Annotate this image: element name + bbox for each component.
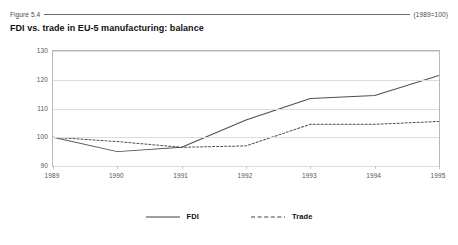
y-tick-label-90: 90: [12, 162, 48, 169]
x-tick-label-1992: 1992: [238, 172, 253, 179]
legend-line-dashed-icon: [251, 213, 285, 221]
chart-container: 90100110120130 1989199019911992199319941…: [10, 44, 448, 204]
y-tick-label-110: 110: [12, 104, 48, 111]
legend-label-fdi: FDI: [187, 212, 199, 221]
x-tick-label-1989: 1989: [45, 172, 60, 179]
x-axis: 1989199019911992199319941995: [52, 172, 440, 184]
x-tick-mark-1989: [53, 166, 54, 169]
figure-number: Figure 5.4: [10, 11, 40, 18]
gridline-100: [53, 137, 439, 138]
series-line-trade: [53, 121, 439, 147]
x-tick-mark-1991: [182, 166, 183, 169]
plot-area: [52, 50, 440, 167]
x-tick-mark-1995: [439, 166, 440, 169]
x-tick-mark-1990: [117, 166, 118, 169]
x-tick-label-1993: 1993: [302, 172, 317, 179]
x-tick-label-1994: 1994: [366, 172, 381, 179]
header-rule: [44, 14, 409, 15]
y-tick-label-100: 100: [12, 133, 48, 140]
gridline-120: [53, 80, 439, 81]
legend-item-fdi: FDI: [146, 212, 199, 221]
y-tick-label-120: 120: [12, 75, 48, 82]
gridline-130: [53, 51, 439, 52]
page-title: FDI vs. trade in EU-5 manufacturing: bal…: [10, 23, 204, 33]
x-tick-mark-1994: [375, 166, 376, 169]
x-tick-label-1990: 1990: [109, 172, 124, 179]
y-axis: 90100110120130: [10, 50, 48, 167]
legend-item-trade: Trade: [251, 212, 313, 221]
legend-line-solid-icon: [146, 213, 180, 221]
chart-legend: FDI Trade: [10, 212, 448, 221]
index-base-note: (1989=100): [414, 11, 448, 18]
series-line-fdi: [53, 75, 439, 151]
x-tick-mark-1992: [246, 166, 247, 169]
y-tick-label-130: 130: [12, 47, 48, 54]
x-tick-mark-1993: [310, 166, 311, 169]
figure-header: Figure 5.4 (1989=100): [10, 8, 448, 20]
legend-label-trade: Trade: [292, 212, 313, 221]
x-tick-label-1991: 1991: [173, 172, 188, 179]
x-tick-label-1995: 1995: [431, 172, 446, 179]
gridline-110: [53, 109, 439, 110]
